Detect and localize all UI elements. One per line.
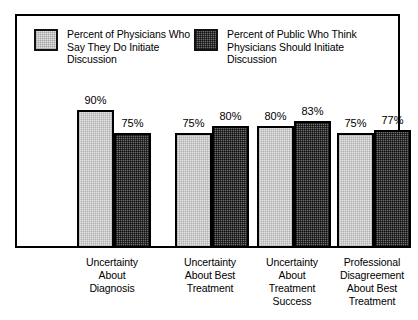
bar-value-label: 75%: [109, 118, 156, 129]
plot-frame: Percent of Physicians Who Say They Do In…: [15, 14, 400, 248]
bar-value-label: 83%: [289, 106, 336, 117]
bars-area: 90%75%75%80%80%83%75%77%: [17, 16, 402, 248]
bar[interactable]: [374, 130, 411, 248]
bar[interactable]: [337, 133, 374, 248]
bar-group: 75%80%: [175, 16, 249, 248]
category-label: Professional Disagreement About Best Tre…: [317, 256, 418, 308]
bar-value-label: 80%: [207, 111, 254, 122]
bar[interactable]: [212, 126, 249, 248]
bar-group: 90%75%: [77, 16, 151, 248]
bar-group: 80%83%: [257, 16, 331, 248]
bar-group: 75%77%: [337, 16, 411, 248]
bar[interactable]: [257, 126, 294, 248]
bar-value-label: 90%: [72, 95, 119, 106]
category-axis-labels: Uncertainty About DiagnosisUncertainty A…: [15, 252, 400, 318]
bar[interactable]: [294, 121, 331, 248]
category-label: Uncertainty About Diagnosis: [57, 256, 167, 295]
bar[interactable]: [114, 133, 151, 248]
bar[interactable]: [77, 110, 114, 248]
bar[interactable]: [175, 133, 212, 248]
bar-value-label: 77%: [369, 115, 416, 126]
bar-chart: Percent of Physicians Who Say They Do In…: [0, 0, 418, 320]
